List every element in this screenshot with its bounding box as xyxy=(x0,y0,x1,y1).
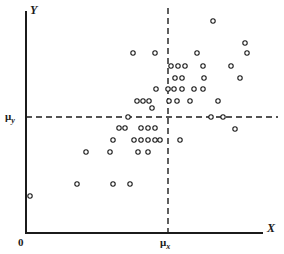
data-point xyxy=(139,138,143,142)
data-point xyxy=(153,126,157,130)
data-point xyxy=(128,182,132,186)
data-point xyxy=(132,138,136,142)
data-point xyxy=(146,138,150,142)
data-point xyxy=(173,76,177,80)
data-point xyxy=(221,115,225,119)
data-point xyxy=(201,87,205,91)
mu-x-subscript: x xyxy=(166,242,170,251)
data-point xyxy=(75,182,79,186)
data-point xyxy=(146,126,150,130)
data-point xyxy=(146,150,150,154)
mu-y-axis-label: μy xyxy=(5,111,15,125)
data-point xyxy=(154,87,158,91)
data-point xyxy=(183,64,187,68)
data-point xyxy=(169,64,173,68)
plot-canvas xyxy=(0,0,284,254)
data-point xyxy=(172,87,176,91)
data-point xyxy=(192,87,196,91)
data-point xyxy=(178,138,182,142)
data-point xyxy=(123,126,127,130)
data-point xyxy=(202,76,206,80)
data-point xyxy=(233,127,237,131)
data-point xyxy=(158,138,162,142)
data-point xyxy=(135,99,139,103)
data-point xyxy=(209,115,213,119)
data-point xyxy=(28,194,32,198)
y-axis-label: Y xyxy=(30,4,37,16)
data-point xyxy=(139,126,143,130)
data-point xyxy=(153,138,157,142)
data-point xyxy=(175,99,179,103)
data-point xyxy=(211,19,215,23)
data-point xyxy=(216,99,220,103)
origin-label: 0 xyxy=(18,237,24,248)
data-point xyxy=(166,87,170,91)
data-point xyxy=(153,51,157,55)
data-point xyxy=(126,115,130,119)
x-axis-label: X xyxy=(267,222,275,234)
scatter-plot-figure: Y X 0 μx μy xyxy=(0,0,284,254)
reference-lines xyxy=(26,8,278,233)
data-point xyxy=(229,64,233,68)
data-point xyxy=(150,106,154,110)
data-point xyxy=(180,87,184,91)
data-point xyxy=(141,99,145,103)
data-point xyxy=(195,51,199,55)
data-point xyxy=(111,138,115,142)
data-point xyxy=(136,150,140,154)
data-point xyxy=(188,99,192,103)
data-point xyxy=(111,182,115,186)
data-point xyxy=(147,99,151,103)
mu-x-axis-label: μx xyxy=(160,237,170,251)
data-point xyxy=(180,76,184,80)
data-point xyxy=(238,76,242,80)
data-point xyxy=(117,126,121,130)
data-point xyxy=(167,99,171,103)
data-point xyxy=(176,64,180,68)
data-points xyxy=(28,19,249,198)
data-point xyxy=(201,64,205,68)
data-point xyxy=(243,41,247,45)
data-point xyxy=(131,51,135,55)
data-point xyxy=(84,150,88,154)
axes xyxy=(26,12,262,233)
data-point xyxy=(245,51,249,55)
mu-y-subscript: y xyxy=(11,116,15,125)
data-point xyxy=(108,150,112,154)
